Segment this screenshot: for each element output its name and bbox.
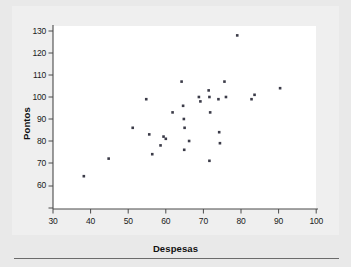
x-axis-title: Despesas — [0, 243, 351, 254]
data-point — [208, 96, 211, 99]
y-tick-label: 70 — [22, 158, 46, 168]
data-point — [279, 87, 282, 90]
data-point — [250, 98, 253, 101]
x-tick-label: 100 — [309, 216, 323, 226]
scatter-plot-canvas — [0, 0, 351, 267]
data-point — [217, 98, 220, 101]
data-point — [218, 131, 221, 134]
data-point — [207, 89, 210, 92]
y-axis-title: Pontos — [21, 94, 32, 154]
y-tick-label: 110 — [22, 70, 46, 80]
data-point — [148, 133, 151, 136]
bottom-divider-rule — [14, 258, 339, 259]
x-tick-label: 30 — [48, 216, 57, 226]
data-point — [183, 149, 186, 152]
data-point — [180, 80, 183, 83]
figure-background: 60708090100110120130 30405060708090100 P… — [0, 0, 351, 267]
x-tick-label: 80 — [236, 216, 245, 226]
x-tick-label: 90 — [274, 216, 283, 226]
data-point — [171, 111, 174, 114]
data-point — [162, 135, 165, 138]
data-point — [225, 96, 228, 99]
data-point — [131, 127, 134, 130]
data-point — [159, 144, 162, 147]
x-tick-label: 40 — [86, 216, 95, 226]
data-point — [236, 34, 239, 37]
data-point — [253, 94, 256, 97]
data-point — [199, 100, 202, 103]
data-point — [209, 111, 212, 114]
x-tick-label: 70 — [199, 216, 208, 226]
y-tick-label: 120 — [22, 48, 46, 58]
data-point — [223, 80, 226, 83]
x-tick-label: 50 — [124, 216, 133, 226]
data-point — [188, 140, 191, 143]
data-point — [182, 105, 185, 108]
y-tick-label: 60 — [22, 180, 46, 190]
data-point — [83, 175, 86, 178]
data-point — [145, 98, 148, 101]
data-point — [208, 160, 211, 163]
y-tick-label: 130 — [22, 26, 46, 36]
data-point — [183, 127, 186, 130]
data-point — [183, 118, 186, 121]
data-point — [107, 157, 110, 160]
x-tick-label: 60 — [161, 216, 170, 226]
data-point — [151, 153, 154, 156]
data-point — [165, 138, 168, 141]
data-point — [198, 96, 201, 99]
data-point — [219, 142, 222, 145]
